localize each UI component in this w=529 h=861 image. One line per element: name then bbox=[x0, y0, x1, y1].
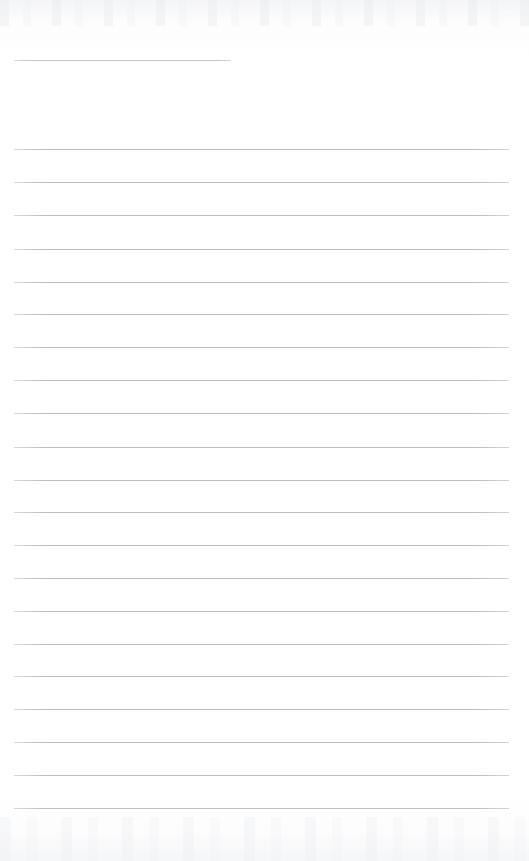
ruled-line-21 bbox=[14, 808, 509, 809]
ruled-line-2 bbox=[14, 182, 509, 183]
ruled-line-16 bbox=[14, 644, 509, 645]
ruled-line-9 bbox=[14, 413, 509, 414]
ruled-line-11 bbox=[14, 480, 509, 481]
ruled-line-7 bbox=[14, 347, 509, 348]
ruled-line-4 bbox=[14, 249, 509, 250]
ruled-line-3 bbox=[14, 215, 509, 216]
ruled-line-6 bbox=[14, 314, 509, 315]
scanned-page bbox=[0, 0, 529, 861]
ruled-line-5 bbox=[14, 282, 509, 283]
ruled-line-18 bbox=[14, 709, 509, 710]
scan-texture-bottom bbox=[0, 817, 529, 861]
ruled-line-14 bbox=[14, 578, 509, 579]
title-rule bbox=[14, 60, 231, 61]
ruled-line-19 bbox=[14, 742, 509, 743]
ruled-line-17 bbox=[14, 676, 509, 677]
paper-surface bbox=[0, 0, 529, 861]
ruled-line-20 bbox=[14, 775, 509, 776]
ruled-line-1 bbox=[14, 149, 509, 150]
ruled-line-13 bbox=[14, 545, 509, 546]
ruled-line-8 bbox=[14, 380, 509, 381]
scan-texture-top bbox=[0, 0, 529, 26]
ruled-line-10 bbox=[14, 447, 509, 448]
ruled-line-15 bbox=[14, 611, 509, 612]
ruled-line-12 bbox=[14, 512, 509, 513]
